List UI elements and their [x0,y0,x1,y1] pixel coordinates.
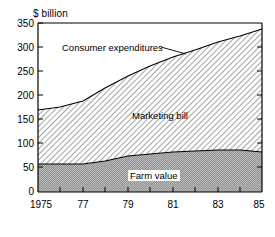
series-label-marketing-bill: Marketing bill [132,110,188,121]
consumer-expenditures-leader-line [161,47,186,54]
series-label-farm-value: Farm value [128,170,180,181]
chart-container: $ billion 350 300 250 200 150 100 50 0 1… [0,0,275,237]
series-label-consumer-expenditures: Consumer expenditures [62,42,163,53]
